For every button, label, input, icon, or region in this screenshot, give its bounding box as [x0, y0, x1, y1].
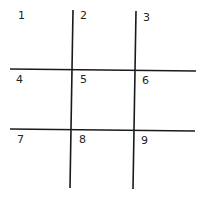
cell-label-4: 4 — [16, 74, 23, 85]
horizontal-line-2 — [10, 129, 195, 131]
vertical-line-1 — [70, 10, 73, 188]
cell-label-3: 3 — [143, 12, 150, 23]
cell-label-1: 1 — [18, 10, 25, 21]
cell-label-9: 9 — [141, 135, 148, 146]
horizontal-line-1 — [10, 69, 196, 71]
vertical-line-2 — [133, 11, 136, 189]
grid-lines — [0, 0, 204, 203]
tic-tac-toe-grid: 1 2 3 4 5 6 7 8 9 — [0, 0, 204, 203]
cell-label-7: 7 — [17, 134, 24, 145]
cell-label-5: 5 — [80, 74, 87, 85]
cell-label-8: 8 — [79, 134, 86, 145]
cell-label-6: 6 — [142, 75, 149, 86]
cell-label-2: 2 — [80, 10, 87, 21]
